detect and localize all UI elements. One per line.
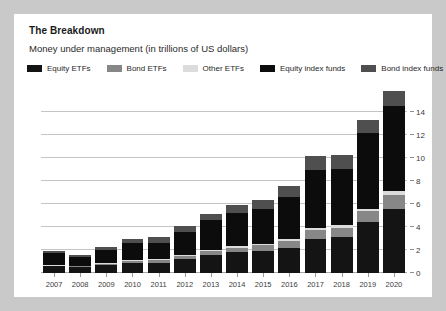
bar-column-2015[interactable] [252, 89, 274, 273]
x-tick-mark-2015 [263, 273, 264, 277]
legend-swatch-bond-index-funds [361, 65, 376, 72]
bar-segment-2010-3[interactable] [122, 243, 144, 260]
x-tick-label-2012: 2012 [172, 280, 198, 289]
bar-segment-2014-0[interactable] [226, 252, 248, 273]
bar-column-2019[interactable] [357, 89, 379, 273]
y-tick-label-10: 10 [416, 154, 425, 163]
y-tick-mark-14 [410, 111, 414, 112]
bar-segment-2009-0[interactable] [95, 265, 117, 273]
bar-column-2010[interactable] [122, 89, 144, 273]
bar-segment-2016-3[interactable] [278, 197, 300, 238]
y-tick-mark-2 [410, 249, 414, 250]
bar-segment-2011-0[interactable] [148, 263, 170, 273]
x-axis: 2007200820092010201120122013201420152016… [41, 273, 407, 295]
bar-segment-2016-1[interactable] [278, 241, 300, 248]
y-tick-label-14: 14 [416, 108, 425, 117]
x-tick-label-2011: 2011 [146, 280, 172, 289]
y-tick-mark-10 [410, 157, 414, 158]
bar-segment-2007-3[interactable] [43, 253, 65, 265]
y-tick-mark-8 [410, 180, 414, 181]
legend-label: Equity index funds [280, 64, 345, 73]
y-tick-mark-0 [410, 272, 414, 273]
x-tick-2011: 2011 [146, 273, 172, 295]
plot-area [41, 89, 407, 273]
x-tick-2014: 2014 [224, 273, 250, 295]
bar-segment-2016-0[interactable] [278, 248, 300, 273]
chart-subtitle: Money under management (in trillions of … [29, 43, 248, 54]
x-tick-mark-2019 [368, 273, 369, 277]
bar-segment-2019-0[interactable] [357, 222, 379, 273]
x-tick-mark-2016 [289, 273, 290, 277]
bar-column-2017[interactable] [305, 89, 327, 273]
x-tick-label-2018: 2018 [329, 280, 355, 289]
bar-column-2013[interactable] [200, 89, 222, 273]
x-tick-label-2008: 2008 [67, 280, 93, 289]
bar-segment-2020-0[interactable] [383, 209, 405, 273]
page-title: The Breakdown [29, 25, 105, 36]
legend-item-2[interactable]: Other ETFs [183, 64, 244, 73]
bar-segment-2015-3[interactable] [252, 209, 274, 244]
bar-segment-2018-1[interactable] [331, 228, 353, 238]
bar-segment-2007-0[interactable] [43, 266, 65, 273]
bar-segment-2011-3[interactable] [148, 243, 170, 260]
x-tick-mark-2017 [315, 273, 316, 277]
bar-segment-2009-3[interactable] [95, 250, 117, 263]
legend-swatch-bond-etfs [107, 65, 122, 72]
y-axis: 02468101214 [410, 89, 436, 273]
legend-item-3[interactable]: Equity index funds [260, 64, 345, 73]
x-tick-mark-2011 [159, 273, 160, 277]
bar-column-2008[interactable] [69, 89, 91, 273]
legend-item-4[interactable]: Bond index funds [361, 64, 443, 73]
bar-segment-2015-4[interactable] [252, 200, 274, 209]
bar-column-2007[interactable] [43, 89, 65, 273]
x-tick-label-2019: 2019 [355, 280, 381, 289]
bar-segment-2014-3[interactable] [226, 213, 248, 246]
x-tick-label-2014: 2014 [224, 280, 250, 289]
bar-segment-2017-1[interactable] [305, 230, 327, 239]
bar-segment-2020-1[interactable] [383, 195, 405, 209]
bar-segment-2018-3[interactable] [331, 169, 353, 225]
bar-segment-2017-4[interactable] [305, 156, 327, 170]
bar-segment-2012-0[interactable] [174, 259, 196, 273]
legend-label: Other ETFs [203, 64, 244, 73]
bar-segment-2012-3[interactable] [174, 232, 196, 255]
x-tick-mark-2018 [342, 273, 343, 277]
x-tick-2017: 2017 [302, 273, 328, 295]
legend-item-1[interactable]: Bond ETFs [107, 64, 167, 73]
bar-column-2014[interactable] [226, 89, 248, 273]
bar-segment-2016-4[interactable] [278, 186, 300, 198]
bar-segment-2017-3[interactable] [305, 170, 327, 228]
bar-segment-2019-1[interactable] [357, 211, 379, 222]
x-tick-mark-2008 [80, 273, 81, 277]
bar-segment-2014-4[interactable] [226, 205, 248, 213]
bar-segment-2013-0[interactable] [200, 255, 222, 273]
bar-column-2020[interactable] [383, 89, 405, 273]
bar-segment-2019-4[interactable] [357, 120, 379, 133]
bar-segment-2008-3[interactable] [69, 257, 91, 266]
bar-column-2009[interactable] [95, 89, 117, 273]
x-tick-2012: 2012 [172, 273, 198, 295]
y-tick-mark-6 [410, 203, 414, 204]
x-tick-mark-2007 [54, 273, 55, 277]
bar-segment-2020-4[interactable] [383, 91, 405, 106]
bar-segment-2017-0[interactable] [305, 239, 327, 274]
x-tick-mark-2013 [211, 273, 212, 277]
bar-column-2011[interactable] [148, 89, 170, 273]
legend-item-0[interactable]: Equity ETFs [27, 64, 91, 73]
x-tick-2020: 2020 [381, 273, 407, 295]
x-tick-mark-2010 [132, 273, 133, 277]
chart-card: The Breakdown Money under management (in… [14, 14, 432, 297]
bar-segment-2013-3[interactable] [200, 220, 222, 250]
x-tick-2013: 2013 [198, 273, 224, 295]
bar-segment-2015-0[interactable] [252, 251, 274, 273]
bar-segment-2019-3[interactable] [357, 133, 379, 209]
y-tick-label-4: 4 [416, 223, 420, 232]
bar-segment-2010-0[interactable] [122, 263, 144, 273]
bar-column-2012[interactable] [174, 89, 196, 273]
bar-column-2018[interactable] [331, 89, 353, 273]
bar-segment-2018-4[interactable] [331, 155, 353, 169]
bar-segment-2020-3[interactable] [383, 106, 405, 191]
bar-column-2016[interactable] [278, 89, 300, 273]
y-tick-mark-4 [410, 226, 414, 227]
bar-segment-2018-0[interactable] [331, 237, 353, 273]
